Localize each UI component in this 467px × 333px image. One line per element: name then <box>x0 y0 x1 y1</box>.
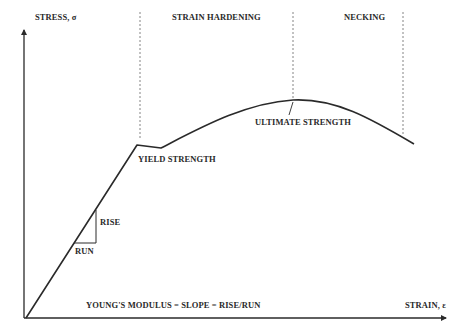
ultimate-strength-label: ULTIMATE STRENGTH <box>255 117 351 127</box>
y-axis-label: STRESS, σ <box>35 12 76 22</box>
youngs-modulus-label: YOUNG'S MODULUS = SLOPE = RISE/RUN <box>86 300 260 310</box>
run-label: RUN <box>75 246 94 256</box>
rise-label: RISE <box>100 217 120 227</box>
region-label-necking: NECKING <box>344 12 385 22</box>
x-axis-label: STRAIN, ε <box>405 300 446 310</box>
stress-strain-diagram <box>0 0 467 333</box>
yield-strength-label: YIELD STRENGTH <box>138 154 216 164</box>
ultimate-leader-line <box>289 102 293 115</box>
stress-strain-curve <box>26 100 414 318</box>
region-label-strain-hardening: STRAIN HARDENING <box>172 12 261 22</box>
